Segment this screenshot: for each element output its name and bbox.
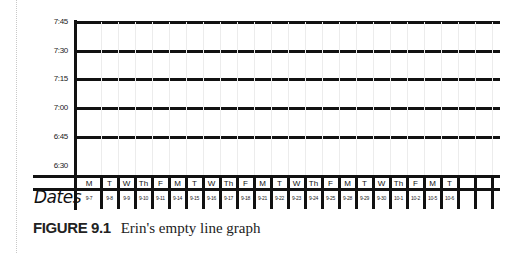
date-label: 10-1 <box>390 193 407 203</box>
gridline-vertical <box>441 22 442 176</box>
date-label: 9-14 <box>169 193 186 203</box>
y-tick-label: 7:45 <box>30 17 68 26</box>
gridline-vertical <box>135 22 136 176</box>
date-label <box>492 193 509 203</box>
y-tick-label: 7:30 <box>30 46 68 55</box>
gridline-vertical <box>492 22 493 176</box>
gridline-vertical <box>322 22 323 176</box>
day-label: W <box>288 179 305 189</box>
gridline-vertical <box>237 22 238 176</box>
date-label: 9-21 <box>254 193 271 203</box>
day-label <box>492 179 509 189</box>
gridline-vertical <box>390 22 391 176</box>
gridline-vertical <box>101 22 102 176</box>
date-label: 9-29 <box>356 193 373 203</box>
gridline-vertical <box>118 22 119 176</box>
gridline-vertical <box>186 22 187 176</box>
day-label: T <box>441 179 458 189</box>
day-label: Th <box>305 179 322 189</box>
gridline-vertical <box>288 22 289 176</box>
gridline-vertical <box>271 22 272 176</box>
header-top-line <box>33 175 500 178</box>
date-label: 9-25 <box>322 193 339 203</box>
date-label: 9-18 <box>237 193 254 203</box>
date-label: 9-11 <box>152 193 169 203</box>
gridline-vertical <box>424 22 425 176</box>
y-tick-label: 6:45 <box>30 132 68 141</box>
day-label: T <box>271 179 288 189</box>
gridline-vertical <box>305 22 306 176</box>
date-label: 9-17 <box>220 193 237 203</box>
gridline-vertical <box>220 22 221 176</box>
date-label: 9-30 <box>373 193 390 203</box>
x-axis-label: Dates <box>34 187 81 207</box>
gridline-vertical <box>373 22 374 176</box>
day-label <box>475 179 492 189</box>
day-label: W <box>373 179 390 189</box>
date-label <box>458 193 475 203</box>
date-label: 9-8 <box>101 193 118 203</box>
gridline-vertical <box>254 22 255 176</box>
day-label: M <box>169 179 186 189</box>
date-label: 9-16 <box>203 193 220 203</box>
day-label: F <box>152 179 169 189</box>
day-label: M <box>339 179 356 189</box>
gridline-vertical <box>152 22 153 176</box>
date-label: 9-22 <box>271 193 288 203</box>
day-label: W <box>118 179 135 189</box>
day-label: F <box>407 179 424 189</box>
day-label: Th <box>220 179 237 189</box>
day-label: T <box>356 179 373 189</box>
day-label: Th <box>390 179 407 189</box>
figure-caption: FIGURE 9.1Erin's empty line graph <box>33 219 260 237</box>
day-label: W <box>203 179 220 189</box>
day-label: T <box>101 179 118 189</box>
date-label <box>475 193 492 203</box>
day-label: M <box>254 179 271 189</box>
day-label <box>458 179 475 189</box>
figure-title: Erin's empty line graph <box>121 220 261 236</box>
day-label: Th <box>135 179 152 189</box>
gridline-vertical <box>339 22 340 176</box>
date-label: 10-6 <box>441 193 458 203</box>
date-label: 9-23 <box>288 193 305 203</box>
date-label: 10-5 <box>424 193 441 203</box>
date-label: 9-9 <box>118 193 135 203</box>
gridline-vertical <box>458 22 459 176</box>
gridline-vertical <box>203 22 204 176</box>
date-label: 9-10 <box>135 193 152 203</box>
date-label: 9-15 <box>186 193 203 203</box>
day-label: F <box>322 179 339 189</box>
day-label: T <box>186 179 203 189</box>
y-tick-label: 7:15 <box>30 74 68 83</box>
day-label: F <box>237 179 254 189</box>
date-label: 10-2 <box>407 193 424 203</box>
gridline-vertical <box>169 22 170 176</box>
page-margin-rule <box>16 0 17 253</box>
y-tick-label: 7:00 <box>30 103 68 112</box>
gridline-vertical <box>475 22 476 176</box>
gridline-vertical <box>407 22 408 176</box>
y-tick-label: 6:30 <box>30 161 68 170</box>
date-label: 9-24 <box>305 193 322 203</box>
date-label: 9-28 <box>339 193 356 203</box>
gridline-vertical <box>356 22 357 176</box>
day-label: M <box>424 179 441 189</box>
figure-number: FIGURE 9.1 <box>33 219 111 236</box>
